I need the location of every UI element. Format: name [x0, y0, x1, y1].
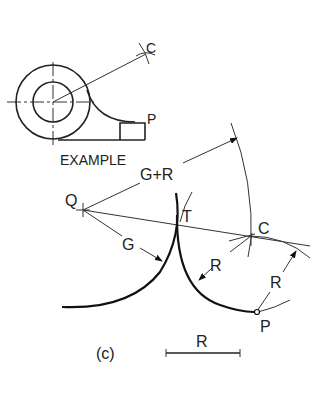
p-point	[255, 310, 260, 315]
g-line-a	[83, 210, 122, 236]
r2-line-a	[257, 292, 270, 311]
g-label: G	[122, 236, 134, 253]
drawing-canvas: C P EXAMPLE Q G+R G T C	[0, 0, 330, 395]
g-plus-r-line-b	[183, 138, 237, 163]
g-plus-r-label: G+R	[140, 166, 173, 183]
example-c-label: C	[146, 40, 156, 56]
r-label-1: R	[210, 257, 222, 274]
figure-caption: (c)	[96, 345, 115, 362]
r2-line-b	[283, 251, 296, 272]
center-to-c-line	[53, 54, 146, 102]
q-to-c-line	[83, 210, 310, 246]
tangent-arc	[87, 90, 135, 122]
g-plus-r-line-a	[83, 183, 140, 210]
scale-bar-label: R	[196, 333, 208, 350]
g-plus-r-arc	[231, 123, 251, 246]
q-label: Q	[65, 192, 77, 209]
p-label: P	[260, 318, 271, 335]
c-locus-arc	[250, 236, 310, 258]
example-title: EXAMPLE	[60, 152, 126, 168]
r-label-2: R	[270, 274, 282, 291]
t-label: T	[182, 208, 192, 225]
lug-rectangle	[120, 123, 145, 140]
g-line-b	[140, 248, 162, 261]
example-p-label: P	[147, 111, 156, 127]
example-drawing: C P EXAMPLE	[7, 40, 156, 168]
c-label: C	[258, 220, 270, 237]
